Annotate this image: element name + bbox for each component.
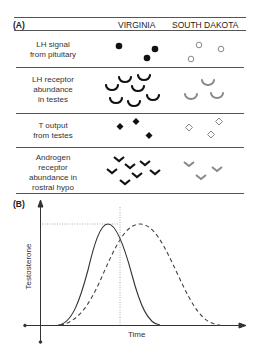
figure-graphics [0, 0, 260, 359]
y-axis-end-dot [39, 341, 42, 344]
androgen-receptor-virginia-chevrons [107, 157, 160, 184]
reference-lines [42, 207, 120, 325]
x-axis-arrow-icon [239, 323, 246, 328]
lh-signal-south-dakota-circles [188, 42, 224, 62]
t-output-virginia-diamonds [117, 118, 153, 139]
figure: (A) VIRGINIA SOUTH DAKOTA LH signal from… [0, 0, 260, 359]
virginia-testosterone-curve [58, 224, 160, 325]
panel-b-axes [24, 200, 246, 343]
t-output-south-dakota-diamonds [186, 118, 223, 138]
y-axis-arrow-icon [38, 200, 43, 207]
lh-receptor-south-dakota-cups [185, 80, 223, 99]
lh-signal-virginia-circles [116, 43, 159, 62]
south-dakota-testosterone-curve [60, 224, 220, 325]
androgen-receptor-south-dakota-chevrons [184, 162, 222, 179]
lh-receptor-virginia-cups [106, 75, 159, 106]
x-axis-end-dot [24, 324, 27, 327]
